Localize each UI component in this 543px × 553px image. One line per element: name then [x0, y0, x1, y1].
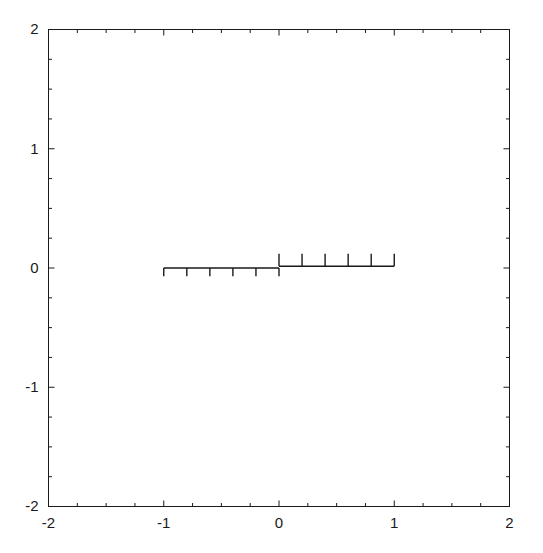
x-tick-label: 1 — [390, 514, 398, 531]
figure-canvas: -2-1012-2-1012 — [0, 0, 543, 553]
series-left-comb-teeth — [164, 268, 279, 276]
x-tick-label: -1 — [157, 514, 170, 531]
series-right-comb-teeth — [279, 254, 394, 267]
x-tick-label: 0 — [275, 514, 283, 531]
tick-labels: -2-1012-2-1012 — [25, 20, 514, 530]
data-series-layer — [164, 254, 395, 277]
y-tick-label: -2 — [25, 497, 38, 514]
x-tick-label: 2 — [505, 514, 513, 531]
y-tick-label: 1 — [30, 140, 38, 157]
stem-plot-chart: -2-1012-2-1012 — [0, 0, 543, 553]
y-tick-label: 0 — [30, 259, 38, 276]
x-tick-label: -2 — [42, 514, 55, 531]
y-tick-label: 2 — [30, 20, 38, 37]
y-tick-label: -1 — [25, 378, 38, 395]
